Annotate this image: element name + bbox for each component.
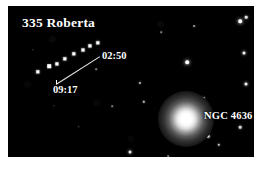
astronomy-figure: 335 Roberta 02:50 09:17 NGC 4636	[0, 0, 262, 177]
star	[111, 105, 113, 107]
asteroid-trail-dot	[47, 64, 51, 68]
asteroid-trail-dot	[63, 57, 66, 60]
star	[245, 83, 248, 86]
star	[78, 126, 79, 127]
star	[243, 52, 246, 55]
star	[53, 105, 54, 106]
star	[95, 68, 97, 70]
star	[139, 82, 141, 84]
star	[239, 126, 242, 129]
star	[160, 31, 162, 33]
time-label-upper: 02:50	[102, 51, 127, 62]
star	[32, 49, 33, 50]
star	[129, 151, 132, 154]
asteroid-trail-dot	[82, 49, 85, 52]
galaxy-name-label: NGC 4636	[204, 111, 253, 122]
asteroid-trail-dot	[72, 52, 75, 55]
star	[185, 60, 189, 64]
star	[143, 101, 145, 103]
asteroid-trail-dot	[96, 41, 99, 44]
star	[238, 19, 242, 23]
clipped-caption	[8, 168, 254, 177]
star	[193, 25, 195, 27]
object-title-label: 335 Roberta	[22, 16, 95, 30]
star	[245, 16, 248, 19]
sky-field: 335 Roberta 02:50 09:17 NGC 4636	[8, 6, 254, 157]
time-label-lower: 09:17	[53, 85, 78, 96]
asteroid-trail-dot	[36, 70, 39, 73]
star	[218, 144, 220, 146]
asteroid-trail-dot	[55, 62, 58, 65]
star	[167, 155, 169, 157]
asteroid-trail-dot	[88, 44, 91, 47]
